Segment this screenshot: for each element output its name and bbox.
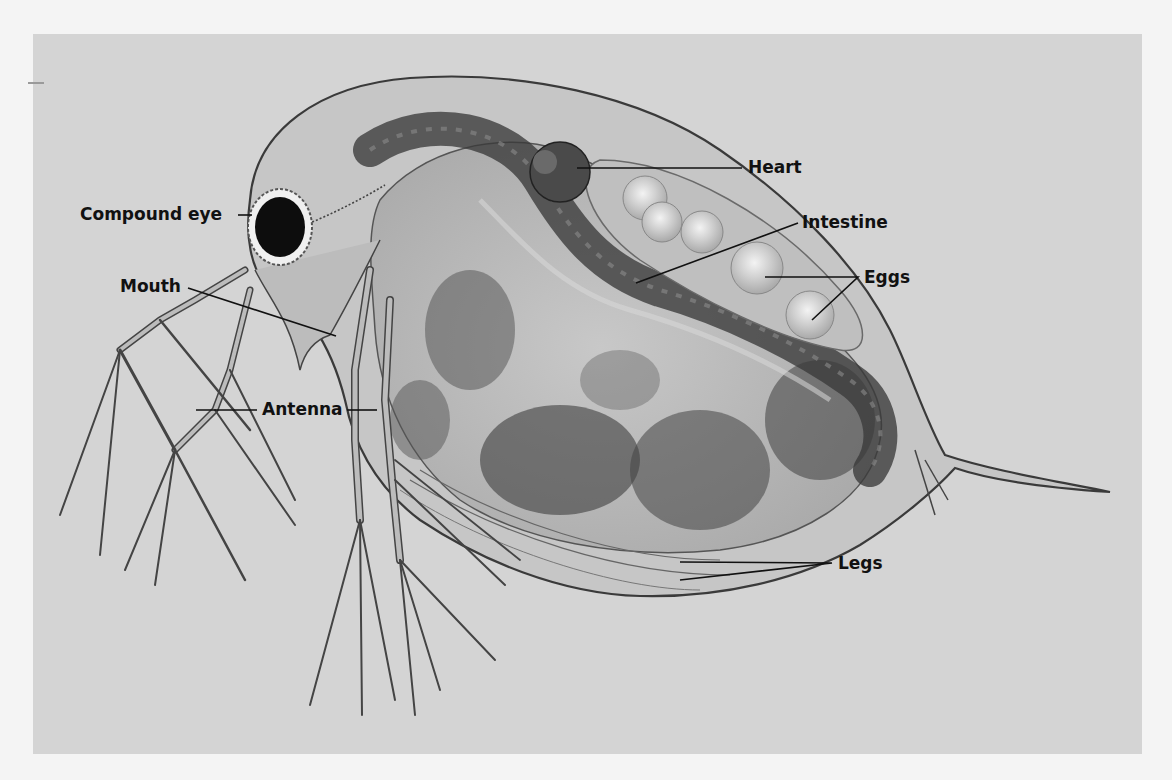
label-mouth: Mouth — [120, 278, 181, 295]
label-compound-eye: Compound eye — [80, 206, 222, 223]
antennae — [60, 270, 295, 585]
daphnia-illustration — [0, 0, 1172, 780]
label-eggs: Eggs — [864, 269, 910, 286]
label-heart: Heart — [748, 159, 802, 176]
label-antenna: Antenna — [262, 401, 343, 418]
label-legs: Legs — [838, 555, 883, 572]
label-intestine: Intestine — [802, 214, 888, 231]
heart — [530, 142, 590, 202]
compound-eye — [248, 189, 312, 265]
